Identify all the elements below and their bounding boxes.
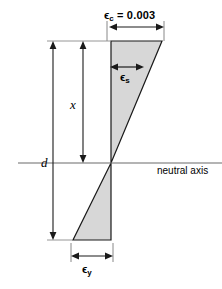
epsilon-c-label: ϵc = 0.003 <box>104 10 155 23</box>
strain-distribution-figure <box>0 0 222 289</box>
tension-strain-triangle <box>73 163 111 240</box>
compression-strain-triangle <box>111 41 162 163</box>
neutral-axis-label: neutral axis <box>157 166 208 176</box>
depth-x-label: x <box>70 98 76 111</box>
epsilon-s-label: ϵs <box>120 72 130 85</box>
x-dimension-line <box>80 41 87 163</box>
epsilon-c-dimension-arrow <box>109 24 164 31</box>
strain-diagram: ϵc = 0.003 ϵs ϵy x d neutral axis <box>0 0 222 289</box>
epsilon-y-subscript: y <box>87 268 91 277</box>
epsilon-s-subscript: s <box>125 76 129 85</box>
epsilon-c-value: = 0.003 <box>114 9 156 21</box>
depth-d-label: d <box>41 156 48 169</box>
epsilon-y-label: ϵy <box>82 264 92 277</box>
epsilon-y-dimension-arrow <box>71 253 113 260</box>
d-dimension-line <box>50 41 57 240</box>
